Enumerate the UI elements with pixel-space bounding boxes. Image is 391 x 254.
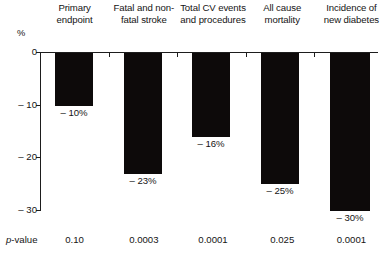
pvalue-total-cv-events-and-procedures: 0.0001 (178, 234, 247, 246)
y-tick-label-minus-30: – 30 (18, 205, 37, 215)
y-tick-label-minus-10: – 10 (18, 100, 37, 110)
category-header-total-cv-events-and-procedures: Total CV events and procedures (178, 2, 247, 44)
category-header-line-2: fatal stroke (121, 14, 167, 25)
x-tick-mark-3 (246, 53, 247, 57)
pvalue-row: 0.10 0.0003 0.0001 0.025 0.0001 (40, 234, 386, 246)
bar-value-primary-endpoint: – 10% (51, 108, 97, 118)
category-header-line-2: endpoint (57, 14, 93, 25)
category-header-primary-endpoint: Primary endpoint (40, 2, 109, 44)
bar-value-all-cause-mortality: – 25% (257, 186, 303, 196)
bar-total-cv-events-and-procedures (192, 53, 230, 137)
y-tick-mark-0 (36, 52, 41, 53)
bar-chart: Primary endpoint Fatal and non- fatal st… (0, 0, 391, 254)
category-header-fatal-and-non-fatal-stroke: Fatal and non- fatal stroke (109, 2, 178, 44)
y-axis-line (40, 52, 41, 211)
pvalue-row-label: p-value (6, 234, 37, 245)
pvalue-label-suffix: -value (11, 234, 37, 245)
pvalue-fatal-and-non-fatal-stroke: 0.0003 (109, 234, 178, 246)
bar-fatal-and-non-fatal-stroke (124, 53, 162, 174)
category-header-row: Primary endpoint Fatal and non- fatal st… (40, 2, 386, 44)
category-header-line-2: and procedures (180, 14, 245, 25)
category-header-line-2: new diabetes (324, 14, 379, 25)
pvalue-all-cause-mortality: 0.025 (248, 234, 317, 246)
category-header-line-2: mortality (265, 14, 300, 25)
bar-primary-endpoint (55, 53, 93, 106)
category-header-line-1: Primary (58, 2, 90, 13)
pvalue-primary-endpoint: 0.10 (40, 234, 109, 246)
bar-value-incidence-of-new-diabetes: – 30% (327, 213, 373, 223)
x-tick-mark-2 (177, 53, 178, 57)
category-header-incidence-of-new-diabetes: Incidence of new diabetes (317, 2, 386, 44)
y-tick-mark-minus-20 (36, 157, 41, 158)
y-tick-mark-minus-30 (36, 210, 41, 211)
x-tick-mark-1 (109, 53, 110, 57)
category-header-line-1: Incidence of (326, 2, 377, 13)
bar-value-fatal-and-non-fatal-stroke: – 23% (120, 176, 166, 186)
category-header-line-1: Total CV events (180, 2, 246, 13)
category-header-all-cause-mortality: All cause mortality (248, 2, 317, 44)
y-tick-label-minus-20: – 20 (18, 152, 37, 162)
y-tick-mark-minus-10 (36, 105, 41, 106)
bar-all-cause-mortality (261, 53, 299, 184)
category-header-line-1: Fatal and non- (114, 2, 174, 13)
x-tick-mark-4 (314, 53, 315, 57)
pvalue-incidence-of-new-diabetes: 0.0001 (317, 234, 386, 246)
y-axis-ticks: 0 – 10 – 20 – 30 (0, 0, 37, 254)
category-header-line-1: All cause (263, 2, 301, 13)
bar-incidence-of-new-diabetes (330, 53, 370, 211)
bar-value-total-cv-events-and-procedures: – 16% (188, 139, 234, 149)
